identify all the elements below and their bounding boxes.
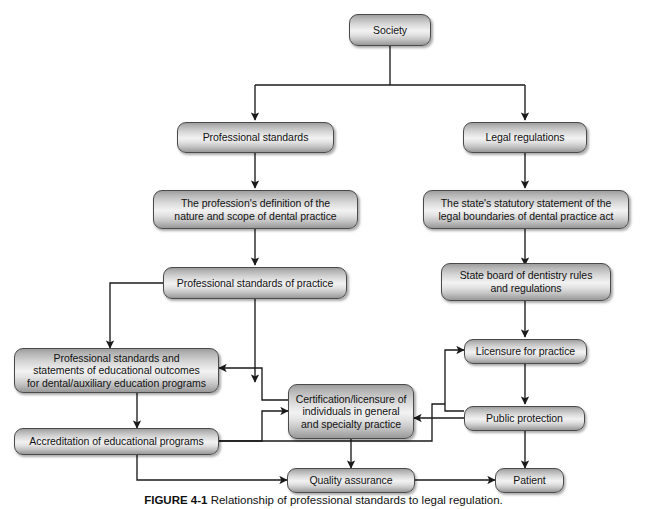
node-society-label: Society [367, 24, 413, 37]
node-state-board-rules-label-line2: and regulations [484, 282, 567, 295]
edge-accreditation-certification [219, 411, 288, 441]
node-licensure-for-practice[interactable]: Licensure for practice [464, 339, 587, 364]
node-certification-label-line2: individuals in general [297, 405, 406, 418]
node-certification-label-line1: Certification/licensure of [290, 393, 413, 406]
figure-caption-text: Relationship of professional standards t… [211, 494, 503, 506]
node-legal-regulations[interactable]: Legal regulations [463, 122, 587, 153]
node-professional-standards-label: Professional standards [197, 131, 315, 144]
node-state-board-rules-label-line1: State board of dentistry rules [454, 269, 599, 282]
flowchart-figure: Society Professional standards Legal reg… [0, 0, 647, 509]
node-licensure-for-practice-label: Licensure for practice [470, 345, 581, 358]
node-state-statute[interactable]: The state's statutory statement of the l… [423, 190, 629, 229]
node-quality-assurance-label: Quality assurance [303, 474, 398, 487]
node-profession-definition[interactable]: The profession's definition of the natur… [153, 190, 358, 229]
node-state-board-rules[interactable]: State board of dentistry rules and regul… [441, 263, 611, 301]
node-certification[interactable]: Certification/licensure of individuals i… [288, 384, 414, 439]
node-patient[interactable]: Patient [495, 468, 564, 493]
edge-certification-educational-outcomes [219, 368, 288, 400]
node-quality-assurance[interactable]: Quality assurance [287, 468, 415, 493]
node-standards-of-practice-label: Professional standards of practice [171, 277, 339, 290]
node-state-statute-label-line2: legal boundaries of dental practice act [433, 210, 620, 223]
figure-number: FIGURE 4-1 [144, 494, 207, 506]
node-standards-of-practice[interactable]: Professional standards of practice [163, 267, 347, 299]
node-educational-outcomes[interactable]: Professional standards and statements of… [14, 348, 219, 393]
node-public-protection[interactable]: Public protection [464, 406, 585, 431]
node-public-protection-label: Public protection [480, 412, 569, 425]
node-patient-label: Patient [507, 474, 551, 487]
node-educational-outcomes-label-line3: for dental/auxiliary education programs [21, 377, 212, 390]
node-profession-definition-label-line1: The profession's definition of the [175, 197, 336, 210]
node-accreditation-label: Accreditation of educational programs [23, 435, 209, 448]
figure-caption: FIGURE 4-1 Relationship of professional … [0, 494, 647, 506]
node-professional-standards[interactable]: Professional standards [177, 122, 334, 153]
edge-public-protection-licensure [445, 350, 464, 411]
node-educational-outcomes-label-line2: statements of educational outcomes [27, 364, 205, 377]
node-profession-definition-label-line2: nature and scope of dental practice [168, 210, 342, 223]
node-legal-regulations-label: Legal regulations [479, 131, 570, 144]
edge-accreditation-quality-assurance [137, 455, 287, 480]
node-educational-outcomes-label-line1: Professional standards and [48, 352, 186, 365]
node-state-statute-label-line1: The state's statutory statement of the [435, 197, 618, 210]
node-accreditation[interactable]: Accreditation of educational programs [14, 428, 219, 455]
edge-standards-practice-educational-outcomes [110, 283, 163, 348]
node-society[interactable]: Society [349, 14, 431, 46]
node-certification-label-line3: and specialty practice [295, 418, 407, 431]
